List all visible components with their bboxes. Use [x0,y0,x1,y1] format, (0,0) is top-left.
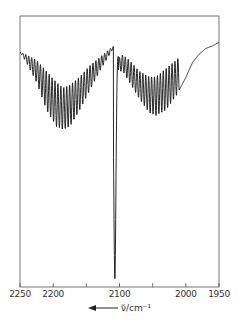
x-tick-label: 2000 [175,289,197,299]
plot-frame [20,16,219,287]
spectrum-line [20,42,219,278]
arrow-left-icon [88,304,118,312]
x-tick-label: 2200 [42,289,64,299]
x-axis-ticks [20,283,219,287]
x-tick-label: 2250 [9,289,31,299]
x-tick-label: 2100 [109,289,131,299]
x-tick-label: 1950 [208,289,230,299]
x-axis-label-text: ν̃/cm⁻¹ [121,303,151,313]
spectrum-chart [0,0,239,324]
x-axis-label: ν̃/cm⁻¹ [88,303,151,313]
